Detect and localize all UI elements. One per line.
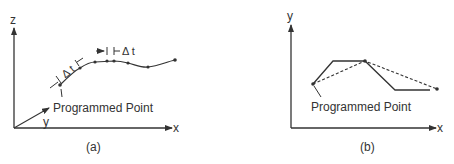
panel-b: y x Programmed Point (b): [287, 9, 443, 154]
programmed-point-label: Programmed Point: [53, 101, 154, 115]
x-axis-label: x: [437, 121, 443, 135]
caption-b: (b): [360, 140, 375, 154]
z-axis-label: z: [10, 13, 16, 27]
delta-t-label-1: Δ t: [59, 63, 77, 80]
figure: z x y Δ t Δ t: [0, 0, 454, 164]
panel-a: z x y Δ t Δ t: [10, 13, 179, 154]
programmed-point-label: Programmed Point: [311, 100, 412, 114]
y-axis-label: y: [43, 115, 49, 129]
programmed-point-leader: [61, 89, 62, 97]
programmed-point-leader: [314, 86, 321, 97]
actual-path-solid: [313, 61, 430, 90]
programmed-path-dashed: [313, 61, 437, 89]
x-axis-label: x: [173, 121, 179, 135]
y-axis-label: y: [287, 9, 293, 23]
delta-t-marker-2: [96, 47, 120, 55]
caption-a: (a): [86, 140, 101, 154]
delta-t-label-2: Δ t: [122, 45, 135, 57]
